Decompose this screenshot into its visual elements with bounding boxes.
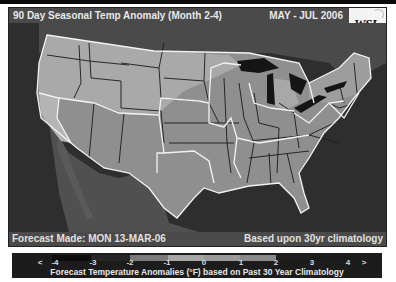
tick-label: > (362, 258, 367, 267)
forecast-made-date: Forecast Made: MON 13-MAR-06 (12, 232, 166, 246)
forecast-period: MAY - JUL 2006 (269, 8, 343, 23)
color-legend: < -4 -3 -2 -1 0 1 2 3 4 > Forecast Tempe… (12, 253, 382, 278)
legend-caption: Forecast Temperature Anomalies (°F) base… (12, 267, 382, 277)
tick-label: -3 (89, 258, 96, 267)
tick-label: 4 (346, 258, 350, 267)
tick-label: < (38, 258, 43, 267)
tick-label: 2 (274, 258, 278, 267)
map-title: 90 Day Seasonal Temp Anomaly (Month 2-4) (13, 8, 222, 23)
top-border (0, 0, 396, 4)
tick-label: 0 (202, 258, 206, 267)
tick-label: 3 (310, 258, 314, 267)
tick-label: -2 (126, 258, 133, 267)
title-bar: 90 Day Seasonal Temp Anomaly (Month 2-4)… (9, 8, 349, 23)
us-temperature-anomaly-map (9, 23, 386, 232)
tick-label: -1 (163, 258, 170, 267)
tick-label: -4 (51, 258, 58, 267)
map-panel: 90 Day Seasonal Temp Anomaly (Month 2-4)… (8, 7, 387, 247)
footer-bar: Forecast Made: MON 13-MAR-06 Based upon … (9, 232, 386, 246)
legend-ticks: < -4 -3 -2 -1 0 1 2 3 4 > (12, 258, 382, 267)
climatology-basis: Based upon 30yr climatology (244, 232, 383, 246)
tick-label: 1 (239, 258, 243, 267)
